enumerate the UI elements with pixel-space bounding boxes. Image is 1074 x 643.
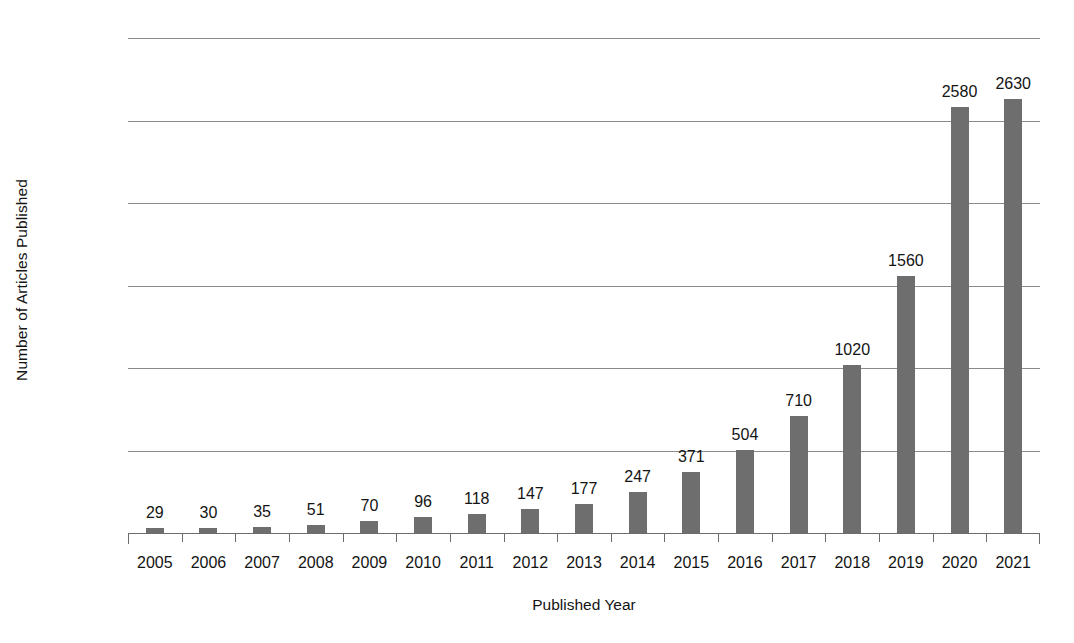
x-axis-title: Published Year <box>128 596 1040 614</box>
x-axis-tick <box>611 533 612 542</box>
x-axis-tick <box>289 533 290 542</box>
x-axis-tick <box>450 533 451 542</box>
x-axis-tick <box>235 533 236 542</box>
bar-value-label: 1560 <box>888 252 924 270</box>
y-axis-title: Number of Articles Published <box>0 0 44 560</box>
bar-value-label: 118 <box>464 490 490 508</box>
x-axis-tick-label: 2018 <box>834 554 870 572</box>
bar <box>951 107 969 533</box>
x-axis-tick <box>879 533 880 542</box>
x-axis-tick <box>825 533 826 542</box>
bar-value-label: 29 <box>146 504 164 522</box>
bar-value-label: 177 <box>571 480 598 498</box>
x-axis-tick <box>772 533 773 542</box>
x-axis-tick <box>718 533 719 542</box>
bar <box>575 504 593 533</box>
x-axis-tick-label: 2017 <box>781 554 817 572</box>
bar-chart: Number of Articles Published 05001000150… <box>0 0 1074 643</box>
bar-value-label: 2580 <box>942 83 978 101</box>
x-axis-tick <box>664 533 665 542</box>
x-axis-tick-label: 2011 <box>460 554 494 572</box>
bar <box>521 509 539 533</box>
gridline <box>128 38 1040 39</box>
x-axis-tick <box>557 533 558 542</box>
x-axis-tick-label: 2014 <box>620 554 656 572</box>
bar-value-label: 710 <box>785 392 812 410</box>
bar-value-label: 2630 <box>995 75 1031 93</box>
bar <box>682 472 700 533</box>
x-axis-tick-label: 2005 <box>137 554 173 572</box>
x-axis-tick <box>504 533 505 542</box>
x-axis-tick <box>343 533 344 542</box>
x-axis-tick-label: 2006 <box>191 554 227 572</box>
x-axis-tick <box>933 533 934 542</box>
x-axis-tick-label: 2015 <box>673 554 709 572</box>
x-axis-tick <box>182 533 183 542</box>
bar <box>790 416 808 533</box>
bar <box>1004 99 1022 533</box>
x-axis-tick <box>986 533 987 542</box>
y-axis-title-text: Number of Articles Published <box>13 179 31 381</box>
x-axis-tick <box>396 533 397 542</box>
bar-value-label: 504 <box>732 426 759 444</box>
x-axis-tick-label: 2016 <box>727 554 763 572</box>
bar <box>414 517 432 533</box>
x-axis-tick-label: 2007 <box>244 554 280 572</box>
x-axis-tick-label: 2009 <box>352 554 388 572</box>
x-axis-tick-label: 2012 <box>513 554 549 572</box>
x-axis-tick-label: 2010 <box>405 554 441 572</box>
bar-value-label: 247 <box>624 468 651 486</box>
x-axis-tick-label: 2019 <box>888 554 924 572</box>
bar-value-label: 70 <box>361 497 379 515</box>
plot-area: 050010001500200025003000 293035517096118… <box>128 38 1040 533</box>
axis-end-left <box>128 533 129 544</box>
bar-value-label: 35 <box>253 503 271 521</box>
bar <box>360 521 378 533</box>
bar-value-label: 147 <box>517 485 544 503</box>
x-axis-tick-label: 2008 <box>298 554 334 572</box>
bar <box>897 276 915 533</box>
bar <box>307 525 325 533</box>
x-axis-baseline <box>128 533 1040 534</box>
x-axis-tick-label: 2020 <box>942 554 978 572</box>
bar <box>468 514 486 533</box>
gridline <box>128 203 1040 204</box>
axis-end-right <box>1039 533 1040 544</box>
x-axis-tick-label: 2021 <box>995 554 1031 572</box>
bar-value-label: 51 <box>307 501 325 519</box>
bar-value-label: 371 <box>678 448 705 466</box>
bar-value-label: 30 <box>200 504 218 522</box>
bar-value-label: 1020 <box>834 341 870 359</box>
bar-value-label: 96 <box>414 493 432 511</box>
bar <box>736 450 754 533</box>
gridline <box>128 121 1040 122</box>
bar <box>629 492 647 533</box>
bar <box>843 365 861 533</box>
x-axis-tick-label: 2013 <box>566 554 602 572</box>
